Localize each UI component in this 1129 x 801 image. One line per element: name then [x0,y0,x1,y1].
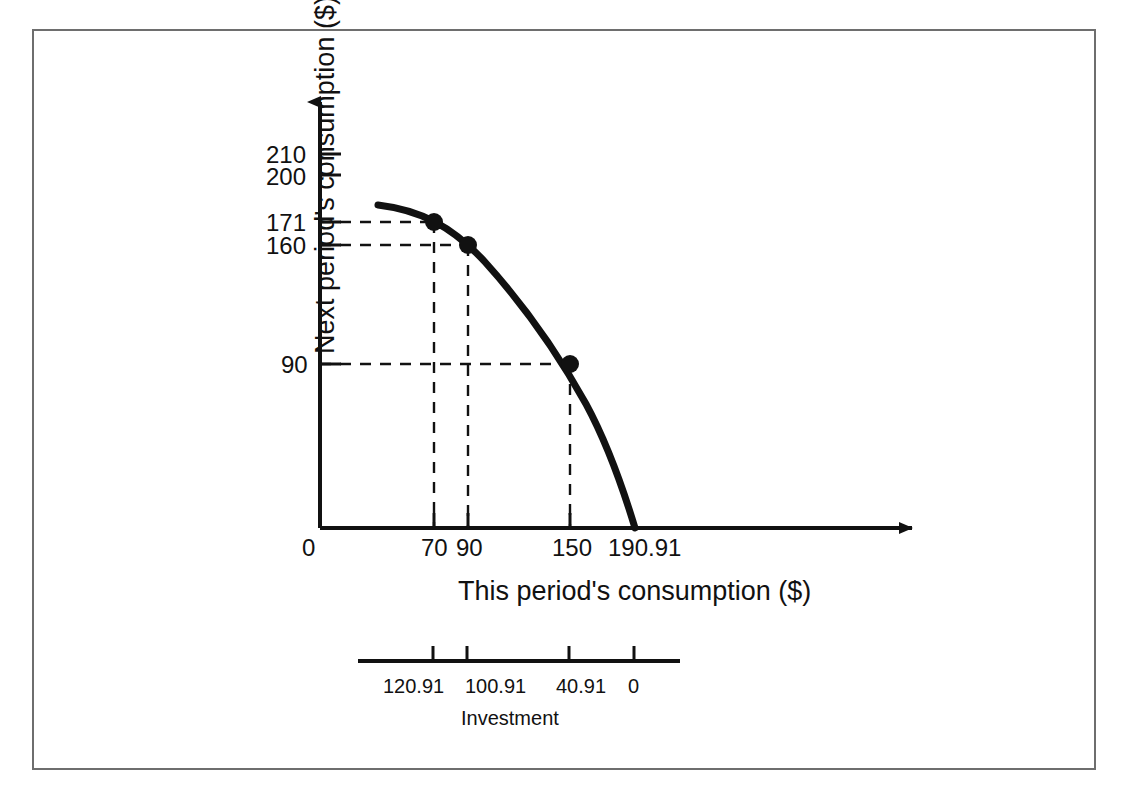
guide-lines [320,222,570,528]
y-tick-label-90: 90 [281,353,308,377]
x-axis-title: This period's consumption ($) [458,578,811,605]
investment-axis-title: Investment [461,708,559,728]
ppf-curve [378,205,635,528]
investment-tick-marks [433,646,634,661]
x-tick-label-70: 70 [421,536,448,560]
data-point-70-171 [425,213,443,231]
data-point-90-160 [459,236,477,254]
x-tick-marks [434,513,570,528]
data-point-150-90 [561,355,579,373]
investment-tick-label-120-91: 120.91 [383,676,444,696]
x-tick-label-0: 0 [302,536,315,560]
y-tick-label-160: 160 [266,234,306,258]
x-tick-label-90: 90 [456,536,483,560]
chart-page: 210 200 171 160 90 0 70 90 150 190.91 Ne… [0,0,1129,801]
investment-tick-label-0: 0 [628,676,639,696]
x-tick-label-190-91: 190.91 [608,536,681,560]
x-tick-label-150: 150 [552,536,592,560]
investment-tick-label-100-91: 100.91 [465,676,526,696]
investment-tick-label-40-91: 40.91 [556,676,606,696]
y-tick-label-200: 200 [266,165,306,189]
y-axis-title: Next period's consumption ($) [310,0,350,355]
